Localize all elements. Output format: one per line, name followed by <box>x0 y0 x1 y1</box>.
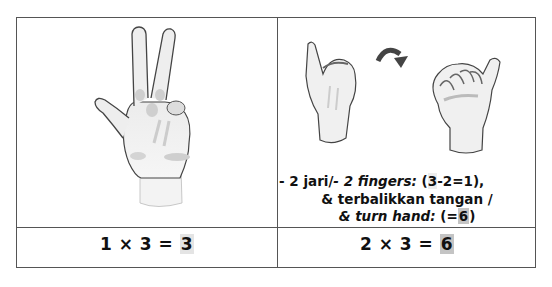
cell-equation-2x3: 2 × 3 = 6 <box>278 228 536 268</box>
hand-back-icon <box>306 42 356 142</box>
cell-two-fingers-image <box>17 18 277 227</box>
cell-turn-hand: - 2 jari/- 2 fingers: (3-2=1), & terbali… <box>278 18 536 227</box>
hand-two-fingers-icon <box>17 18 277 227</box>
description-line-2: & terbalikkan tangan / <box>278 191 536 209</box>
hands-turn-illustration <box>278 18 536 168</box>
result-highlight: 6 <box>440 234 454 254</box>
turn-hand-description: - 2 jari/- 2 fingers: (3-2=1), & terbali… <box>278 173 536 226</box>
description-line-1: - 2 jari/- 2 fingers: (3-2=1), <box>278 173 536 191</box>
equation-2x3: 2 × 3 = 6 <box>278 234 536 254</box>
multiplication-table: - 2 jari/- 2 fingers: (3-2=1), & terbali… <box>16 17 536 268</box>
cell-equation-1x3: 1 × 3 = 3 <box>17 228 277 268</box>
hand-palm-icon <box>433 58 500 153</box>
description-line-3: & turn hand: (=6) <box>278 208 536 226</box>
result-highlight: 3 <box>180 234 194 254</box>
equation-1x3: 1 × 3 = 3 <box>17 234 277 254</box>
